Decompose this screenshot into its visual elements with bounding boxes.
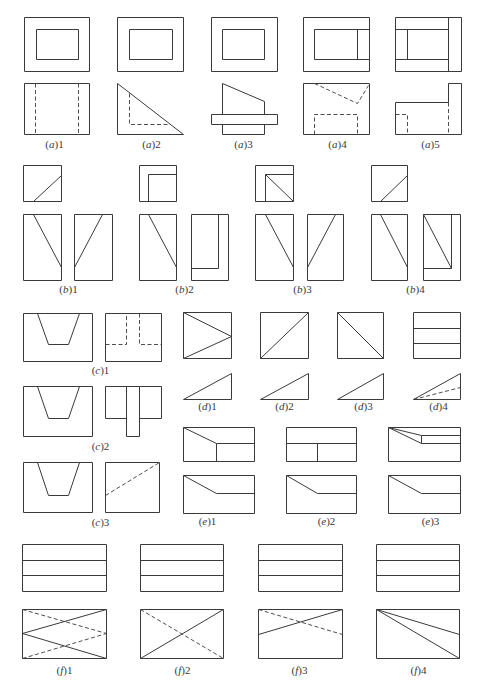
figure-label: (f)2 — [175, 664, 191, 677]
visible-edge-line — [118, 84, 184, 135]
visible-edge-line — [23, 545, 107, 592]
upper-view — [304, 18, 370, 72]
figure-label: (f)3 — [292, 664, 308, 677]
figure-a2: (a)2 — [118, 18, 184, 151]
hidden-edge-line — [315, 115, 358, 135]
figure-b1: (b)1 — [24, 166, 113, 296]
upper-view — [389, 428, 461, 462]
visible-edge-line — [37, 30, 79, 60]
lower-view — [118, 84, 184, 135]
hidden-edge-line — [140, 314, 162, 345]
visible-edge-line — [304, 84, 370, 135]
figure-a4: (a)4 — [304, 18, 370, 151]
lower-view — [184, 374, 232, 400]
label-text: )3 — [430, 515, 440, 528]
lower-left-view — [372, 215, 408, 281]
visible-edge-line — [414, 374, 461, 400]
label-text: )3 — [303, 283, 313, 296]
visible-edge-line — [377, 545, 460, 592]
lower-right-view — [424, 215, 461, 281]
visible-edge-line — [381, 176, 408, 202]
upper-view — [212, 18, 278, 72]
left-view — [24, 387, 93, 437]
visible-edge-line — [414, 313, 461, 359]
visible-edge-line — [24, 463, 93, 513]
visible-edge-line — [266, 215, 294, 268]
figure-label: (c)2 — [92, 440, 110, 453]
label-text: )1 — [100, 364, 109, 377]
lower-right-view — [308, 215, 344, 281]
upper-view — [256, 166, 294, 202]
lower-view — [261, 374, 309, 400]
lower-view — [414, 374, 461, 400]
visible-edge-line — [259, 545, 343, 592]
upper-view — [140, 166, 177, 202]
label-text: )4 — [416, 283, 426, 296]
figure-a1: (a)1 — [25, 18, 90, 151]
visible-edge-line — [25, 84, 90, 135]
figure-b2: (b)2 — [140, 166, 229, 296]
visible-edge-line — [106, 463, 160, 513]
visible-edge-line — [372, 166, 408, 202]
lower-right-view — [75, 215, 113, 281]
upper-view — [338, 313, 384, 359]
visible-edge-line — [223, 84, 265, 135]
upper-view — [25, 18, 90, 72]
label-text: )2 — [285, 400, 294, 413]
figure-d3: (d)3 — [338, 313, 384, 413]
label-text: )1 — [63, 664, 72, 677]
hidden-edge-line — [315, 84, 369, 104]
visible-edge-line — [261, 313, 309, 359]
lower-view — [377, 610, 460, 659]
visible-edge-line — [256, 215, 294, 281]
lower-left-view — [140, 215, 177, 281]
visible-edge-line — [259, 610, 343, 659]
lower-view — [141, 610, 224, 659]
label-text: )4 — [439, 400, 449, 413]
visible-edge-line — [338, 374, 384, 400]
figure-b4: (b)4 — [372, 166, 461, 296]
visible-edge-line — [75, 215, 103, 268]
visible-edge-line — [212, 115, 278, 125]
visible-edge-line — [223, 30, 265, 60]
upper-view — [118, 18, 184, 72]
visible-edge-line — [24, 215, 62, 281]
figure-f3: (f)3 — [259, 545, 343, 677]
visible-edge-line — [184, 476, 255, 494]
label-text: )1 — [208, 400, 217, 413]
visible-edge-line — [315, 30, 370, 60]
label-text: )3 — [364, 400, 374, 413]
visible-edge-line — [106, 314, 162, 362]
upper-view — [261, 313, 309, 359]
figure-a3: (a)3 — [212, 18, 278, 151]
visible-edge-line — [25, 18, 90, 72]
visible-edge-line — [141, 545, 224, 592]
visible-edge-line — [34, 176, 62, 202]
upper-view — [377, 545, 460, 592]
label-text: )4 — [338, 138, 348, 151]
visible-edge-line — [396, 18, 462, 72]
label-text: )2 — [181, 664, 190, 677]
figure-label: (a)3 — [234, 138, 253, 151]
visible-edge-line — [192, 215, 229, 281]
figure-label: (e)3 — [422, 515, 440, 528]
lower-view — [396, 84, 462, 135]
figure-label: (b)4 — [406, 283, 425, 296]
visible-edge-line — [338, 313, 384, 359]
right-view — [106, 314, 162, 362]
figure-e2: (e)2 — [287, 428, 357, 528]
figure-b3: (b)3 — [256, 166, 344, 296]
figure-label: (e)1 — [199, 515, 217, 528]
hidden-edge-line — [106, 314, 127, 345]
visible-edge-line — [140, 166, 177, 202]
figure-f1: (f)1 — [23, 545, 107, 677]
label-text: )1 — [207, 515, 216, 528]
figure-d4: (d)4 — [414, 313, 461, 413]
hidden-edge-line — [396, 115, 408, 135]
figure-label: (a)1 — [45, 138, 63, 151]
label-text: )2 — [152, 138, 161, 151]
upper-view — [141, 545, 224, 592]
figure-label: (c)3 — [92, 516, 110, 529]
figure-e1: (e)1 — [184, 428, 255, 528]
visible-edge-line — [140, 215, 177, 281]
